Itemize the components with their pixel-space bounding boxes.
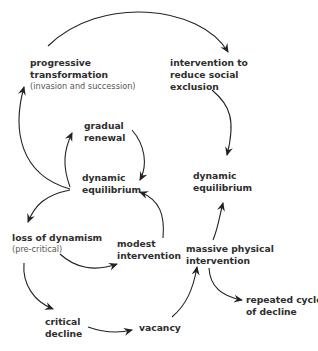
label-subtext: (invasion and succession) — [30, 81, 136, 92]
label-line: intervention — [117, 250, 181, 262]
edge-progressive-to-social — [48, 12, 228, 52]
node-intervention-social-exclusion: intervention to reduce social exclusion — [170, 57, 248, 93]
label-line: dynamic — [82, 172, 141, 184]
label-line: equilibrium — [193, 182, 252, 194]
node-massive-physical-intervention: massive physical intervention — [186, 243, 274, 267]
label-line: reduce social — [170, 69, 248, 81]
label-line: vacancy — [139, 322, 181, 334]
label-line: renewal — [84, 132, 125, 144]
label-line: transformation — [30, 69, 136, 81]
label-line: dynamic — [193, 170, 252, 182]
label-line: modest — [117, 238, 181, 250]
node-modest-intervention: modest intervention — [117, 238, 181, 262]
edge-massive-to-repeated — [209, 268, 242, 300]
node-repeated-cycle-of-decline: repeated cycle of decline — [246, 294, 318, 318]
label-line: intervention — [186, 255, 274, 267]
label-line: intervention to — [170, 57, 248, 69]
label-line: massive physical — [186, 243, 274, 255]
edge-vacancy-to-massive — [172, 267, 197, 317]
edge-social-to-equilibrium-right — [212, 90, 231, 155]
node-loss-of-dynamism: loss of dynamism (pre-critical) — [12, 232, 102, 255]
edge-equilibrium-to-loss — [28, 190, 70, 222]
edge-massive-to-equilibrium-right — [213, 203, 223, 240]
label-line: progressive — [30, 57, 136, 69]
node-vacancy: vacancy — [139, 322, 181, 334]
node-progressive-transformation: progressive transformation (invasion and… — [30, 57, 136, 92]
edge-critical-to-vacancy — [88, 327, 132, 332]
label-line: repeated cycle — [246, 294, 318, 306]
edge-modest-to-equilibrium — [140, 192, 163, 238]
node-dynamic-equilibrium-right: dynamic equilibrium — [193, 170, 252, 194]
label-line: decline — [45, 328, 82, 340]
label-line: gradual — [84, 120, 125, 132]
node-gradual-renewal: gradual renewal — [84, 120, 125, 144]
node-critical-decline: critical decline — [45, 316, 82, 340]
edge-loss-to-critical — [24, 263, 53, 309]
edge-equilibrium-to-renewal — [65, 133, 72, 187]
label-line: of decline — [246, 306, 318, 318]
label-line: exclusion — [170, 81, 248, 93]
label-line: loss of dynamism — [12, 232, 102, 244]
edge-loss-to-modest — [60, 254, 117, 268]
label-subtext: (pre-critical) — [12, 244, 102, 255]
node-dynamic-equilibrium-left: dynamic equilibrium — [82, 172, 141, 196]
edge-equilibrium-to-progressive — [19, 87, 70, 189]
label-line: critical — [45, 316, 82, 328]
label-line: equilibrium — [82, 184, 141, 196]
